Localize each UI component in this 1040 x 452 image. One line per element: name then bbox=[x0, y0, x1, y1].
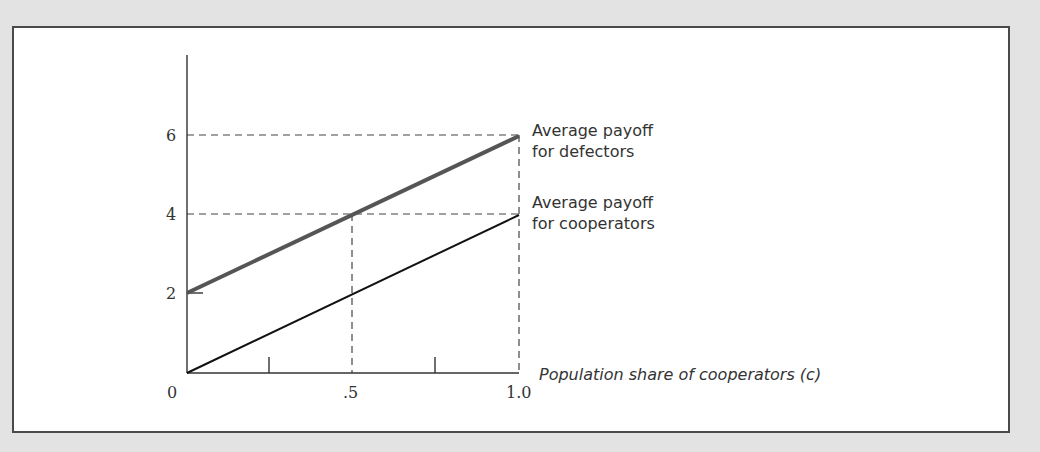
x-axis-title: Population share of cooperators (c) bbox=[539, 365, 821, 384]
cooperators-line bbox=[187, 215, 519, 373]
x-tick-label-05: .5 bbox=[343, 383, 358, 402]
y-tick-label-6: 6 bbox=[166, 126, 176, 145]
reference-lines bbox=[187, 135, 519, 373]
payoff-chart: 6 4 2 0 .5 1.0 Average payoff for defect… bbox=[0, 0, 1040, 452]
cooperators-label-line1: Average payoff bbox=[532, 193, 654, 212]
x-tick-label-10: 1.0 bbox=[506, 383, 531, 402]
x-tick-label-0: 0 bbox=[167, 383, 177, 402]
y-tick-label-4: 4 bbox=[166, 205, 176, 224]
y-tick-label-2: 2 bbox=[166, 284, 176, 303]
cooperators-label-line2: for cooperators bbox=[532, 214, 655, 233]
defectors-label-line1: Average payoff bbox=[532, 121, 654, 140]
defectors-label-line2: for defectors bbox=[532, 142, 634, 161]
